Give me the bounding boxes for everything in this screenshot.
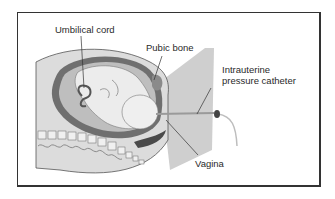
label-pubic-bone: Pubic bone xyxy=(146,42,194,53)
catheter-tail xyxy=(218,114,237,146)
catheter-connector xyxy=(214,110,220,118)
label-catheter-line1: Intrauterine xyxy=(222,64,270,75)
label-catheter-line2: pressure catheter xyxy=(222,75,296,86)
anatomy-illustration xyxy=(0,0,335,199)
label-umbilical-cord: Umbilical cord xyxy=(55,24,115,35)
fetal-head xyxy=(122,95,158,129)
catheter xyxy=(156,113,214,114)
label-vagina: Vagina xyxy=(195,158,224,169)
